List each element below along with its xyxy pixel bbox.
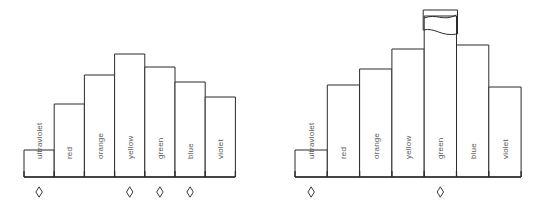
- bar-label-ultraviolet: ultraviolet: [35, 122, 44, 159]
- bar-violet: [205, 97, 235, 177]
- left-markers: [36, 187, 193, 197]
- bar-orange: [84, 75, 114, 177]
- bar-label-red: red: [339, 147, 348, 159]
- bar-label-yellow: yellow: [126, 136, 135, 159]
- bar-label-violet: violet: [501, 139, 510, 159]
- bar-label-ultraviolet: ultraviolet: [307, 122, 316, 159]
- bar-label-blue: blue: [186, 143, 195, 159]
- right-markers: [308, 187, 444, 197]
- bar-violet: [489, 87, 521, 177]
- axis-marker-green: [437, 187, 443, 197]
- bar-label-blue: blue: [469, 143, 478, 159]
- bar-green: [145, 67, 175, 177]
- bar-label-green: green: [156, 138, 165, 159]
- axis-marker-ultraviolet: [36, 187, 42, 197]
- bar-chart-right: ultravioletredorangeyellowgreenblueviole…: [273, 0, 545, 216]
- bar-chart-left: ultravioletredorangeyellowgreenblueviole…: [0, 0, 273, 216]
- bar-blue: [175, 82, 205, 177]
- bar-orange: [360, 69, 392, 177]
- bar-label-green: green: [436, 138, 445, 159]
- bar-label-orange: orange: [372, 133, 381, 159]
- axis-marker-blue: [187, 187, 193, 197]
- bar-label-orange: orange: [96, 133, 105, 159]
- bar-red: [54, 104, 84, 177]
- figure-canvas: ultravioletredorangeyellowgreenblueviole…: [0, 0, 545, 216]
- bar-red: [327, 85, 359, 177]
- axis-marker-yellow: [127, 187, 133, 197]
- bar-label-violet: violet: [216, 139, 225, 159]
- bar-label-yellow: yellow: [404, 136, 413, 159]
- axis-marker-ultraviolet: [308, 187, 314, 197]
- axis-marker-green: [157, 187, 163, 197]
- bar-label-red: red: [65, 147, 74, 159]
